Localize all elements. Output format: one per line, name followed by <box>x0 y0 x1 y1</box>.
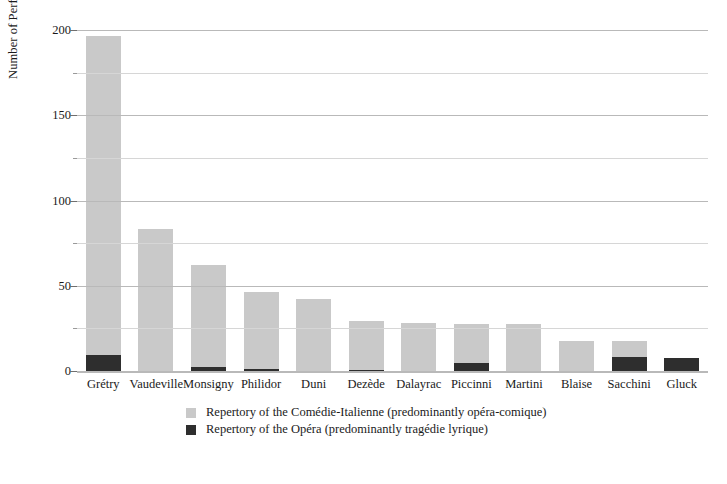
gridline-minor <box>77 243 708 244</box>
bar-group[interactable] <box>454 324 489 372</box>
y-axis-tick-mark <box>70 286 77 287</box>
y-axis-minor-tick-mark <box>73 328 77 329</box>
y-axis-minor-tick-mark <box>73 158 77 159</box>
bar-segment-comedie-italienne[interactable] <box>612 341 647 356</box>
bar-segment-comedie-italienne[interactable] <box>454 324 489 363</box>
legend-entry[interactable]: Repertory of the Comédie-Italienne (pred… <box>186 404 547 421</box>
x-axis-line <box>77 372 708 373</box>
plot-area: 050100150200 <box>77 31 708 372</box>
x-axis-tick-label: Duni <box>287 377 340 392</box>
y-axis-minor-tick-mark <box>73 73 77 74</box>
bar-group[interactable] <box>506 324 541 372</box>
legend-swatch-icon <box>186 425 196 435</box>
bar-group[interactable] <box>664 358 699 372</box>
x-axis-tick-label: Grétry <box>77 377 130 392</box>
bar-segment-comedie-italienne[interactable] <box>506 324 541 372</box>
chart-legend: Repertory of the Comédie-Italienne (pred… <box>186 404 547 438</box>
x-axis-tick-label: Philidor <box>235 377 288 392</box>
x-axis-tick-label: Sacchini <box>603 377 656 392</box>
bar-segment-opera[interactable] <box>612 357 647 372</box>
bar-segment-comedie-italienne[interactable] <box>296 299 331 372</box>
bar-group[interactable] <box>244 292 279 372</box>
x-axis-tick-label: Blaise <box>550 377 603 392</box>
y-axis-tick-label: 100 <box>52 193 71 208</box>
bar-segment-opera[interactable] <box>664 358 699 372</box>
gridline-minor <box>77 73 708 74</box>
bar-segment-comedie-italienne[interactable] <box>86 36 121 355</box>
x-axis-tick-label: Martini <box>498 377 551 392</box>
y-axis-tick-mark <box>70 201 77 202</box>
y-axis-tick-mark <box>70 371 77 372</box>
x-axis-tick-label: Dalayrac <box>393 377 446 392</box>
bar-group[interactable] <box>296 299 331 372</box>
y-axis-tick-label: 150 <box>52 108 71 123</box>
legend-label: Repertory of the Comédie-Italienne (pred… <box>206 405 547 420</box>
bar-group[interactable] <box>612 341 647 372</box>
y-axis-tick-mark <box>70 115 77 116</box>
bar-group[interactable] <box>559 341 594 372</box>
bar-group[interactable] <box>401 323 436 372</box>
gridline-major: 100 <box>77 201 708 202</box>
bar-group[interactable] <box>191 265 226 372</box>
bar-chart-figure: Number of Performances 050100150200 Grét… <box>0 0 727 484</box>
bar-segment-comedie-italienne[interactable] <box>559 341 594 372</box>
bars-container <box>77 31 708 372</box>
gridline-minor <box>77 328 708 329</box>
x-axis-tick-label: Gluck <box>655 377 708 392</box>
bar-group[interactable] <box>138 229 173 372</box>
x-axis-tick-label: Monsigny <box>182 377 235 392</box>
gridline-major: 200 <box>77 30 708 31</box>
legend-swatch-icon <box>186 408 196 418</box>
x-axis-tick-label: Dezède <box>340 377 393 392</box>
bar-segment-comedie-italienne[interactable] <box>244 292 279 369</box>
gridline-minor <box>77 158 708 159</box>
bar-segment-comedie-italienne[interactable] <box>138 229 173 372</box>
y-axis-minor-tick-mark <box>73 243 77 244</box>
x-axis-tick-label: Piccinni <box>445 377 498 392</box>
y-axis-tick-label: 200 <box>52 23 71 38</box>
y-axis-title-container: Number of Performances <box>18 31 38 372</box>
y-axis-title: Number of Performances <box>6 0 21 79</box>
bar-segment-comedie-italienne[interactable] <box>401 323 436 372</box>
legend-entry[interactable]: Repertory of the Opéra (predominantly tr… <box>186 421 547 438</box>
x-axis-tick-label: Vaudeville <box>130 377 183 392</box>
bar-segment-comedie-italienne[interactable] <box>191 265 226 367</box>
legend-label: Repertory of the Opéra (predominantly tr… <box>206 422 488 437</box>
gridline-major: 50 <box>77 286 708 287</box>
y-axis-tick-mark <box>70 30 77 31</box>
bar-segment-opera[interactable] <box>86 355 121 372</box>
gridline-major: 150 <box>77 115 708 116</box>
bar-group[interactable] <box>86 36 121 372</box>
